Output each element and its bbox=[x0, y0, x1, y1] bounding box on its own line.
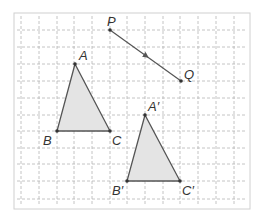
label-b: B bbox=[43, 133, 52, 148]
vertex-point bbox=[179, 79, 183, 83]
label-p: P bbox=[107, 14, 116, 29]
label-a: A bbox=[78, 48, 88, 63]
vertex-point bbox=[143, 113, 147, 117]
vertex-point bbox=[73, 62, 77, 66]
label-b-prime: B′ bbox=[112, 183, 124, 198]
translation-diagram: P Q A B C A′ B′ C′ bbox=[0, 0, 262, 220]
label-q: Q bbox=[184, 67, 194, 82]
vertex-point bbox=[125, 179, 129, 183]
label-c-prime: C′ bbox=[182, 183, 194, 198]
vertex-point bbox=[55, 129, 59, 133]
label-c: C bbox=[112, 133, 122, 148]
label-a-prime: A′ bbox=[147, 99, 160, 114]
